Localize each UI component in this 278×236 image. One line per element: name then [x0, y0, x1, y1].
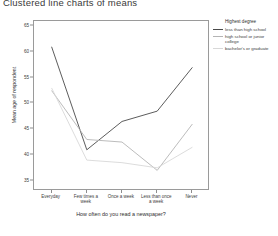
legend-item-label: high school or junior college	[225, 34, 277, 44]
x-tick-mark	[51, 190, 52, 193]
legend-item-label: less than high school	[225, 27, 266, 32]
legend-items: less than high schoolhigh school or juni…	[213, 27, 277, 51]
legend-item[interactable]: high school or junior college	[213, 34, 277, 44]
legend-title: Highest degree	[213, 19, 277, 24]
y-tick-label: 65	[24, 23, 29, 28]
page-title: Clustered line charts of means	[3, 0, 243, 9]
series-line	[52, 88, 193, 168]
chart-page: Clustered line charts of means Mean age …	[0, 0, 278, 236]
x-tick-label: Less than once a week	[139, 194, 173, 205]
legend-line-icon	[213, 29, 223, 30]
x-tick-mark	[121, 190, 122, 193]
y-axis-label: Mean age of respondent	[11, 40, 17, 150]
x-tick-mark	[156, 190, 157, 193]
legend: Highest degree less than high schoolhigh…	[213, 19, 277, 53]
plot-area	[33, 20, 209, 190]
x-tick-label: Few times a week	[69, 194, 103, 205]
series-line	[52, 47, 193, 150]
x-tick-label: Never	[174, 194, 208, 199]
legend-item[interactable]: bachelor's or graduate	[213, 46, 277, 51]
y-tick-label: 50	[24, 100, 29, 105]
legend-item-label: bachelor's or graduate	[225, 46, 269, 51]
legend-line-icon	[213, 36, 223, 37]
x-tick-mark	[86, 190, 87, 193]
x-tick-mark	[191, 190, 192, 193]
x-axis-label: How often do you read a newspaper?	[33, 211, 209, 217]
legend-line-icon	[213, 48, 223, 49]
y-axis: Mean age of respondent 35404550556065	[0, 20, 33, 190]
y-tick-label: 55	[24, 74, 29, 79]
y-tick-label: 60	[24, 48, 29, 53]
y-tick-label: 45	[24, 126, 29, 131]
x-tick-label: Once a week	[104, 194, 138, 199]
plot-lines	[34, 21, 210, 191]
y-tick-label: 35	[24, 177, 29, 182]
legend-item[interactable]: less than high school	[213, 27, 277, 32]
x-tick-label: Everyday	[34, 194, 68, 199]
y-tick-label: 40	[24, 151, 29, 156]
